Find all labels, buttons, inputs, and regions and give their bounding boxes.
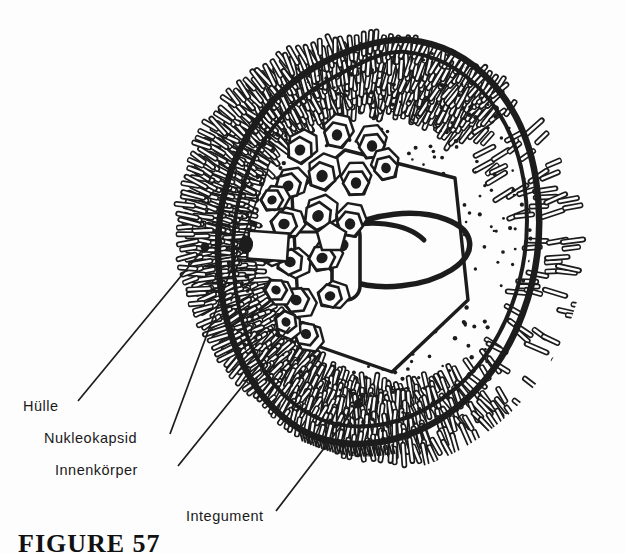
figure-page: Hülle Nukleokapsid Innenkörper Integumen… (0, 0, 626, 554)
figure-caption: FIGURE 57 (18, 531, 161, 554)
label-nukleokapsid: Nukleokapsid (44, 430, 137, 446)
label-innenkoerper: Innenkörper (55, 462, 138, 478)
label-huelle: Hülle (23, 398, 59, 414)
label-integument: Integument (186, 508, 264, 524)
